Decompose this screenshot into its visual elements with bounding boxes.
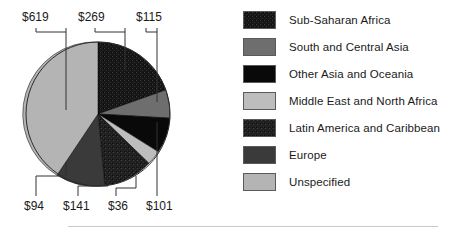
legend-item-latin-america-and-caribbean: Latin America and Caribbean — [243, 114, 451, 141]
value-label-europe: $94 — [24, 199, 44, 213]
legend-swatch-europe — [243, 146, 276, 164]
legend-label-unspecified: Unspecified — [289, 176, 350, 188]
legend-swatch-middle-east-and-north-africa — [243, 92, 276, 110]
legend-item-other-asia-and-oceania: Other Asia and Oceania — [243, 60, 451, 87]
legend-label-sub-saharan-africa: Sub-Saharan Africa — [289, 14, 391, 26]
swatch-texture-icon — [244, 120, 276, 137]
legend-label-south-and-central-asia: South and Central Asia — [289, 41, 409, 53]
value-label-unspecified: $619 — [22, 10, 49, 24]
value-label-sub-saharan-africa: $269 — [78, 10, 105, 24]
legend-swatch-latin-america-and-caribbean — [243, 119, 276, 137]
legend-label-europe: Europe — [289, 149, 327, 161]
legend-swatch-sub-saharan-africa — [243, 11, 276, 29]
chart-legend: Sub-Saharan Africa South and Central Asi… — [243, 6, 451, 195]
legend-item-sub-saharan-africa: Sub-Saharan Africa — [243, 6, 451, 33]
pie-chart-figure: $619 $269 $115 $94 $141 $36 $101 Sub-Sah… — [0, 0, 451, 235]
legend-item-europe: Europe — [243, 141, 451, 168]
swatch-texture-icon — [244, 12, 276, 29]
value-label-latin-america-and-caribbean: $141 — [63, 199, 90, 213]
legend-label-other-asia-and-oceania: Other Asia and Oceania — [289, 68, 413, 80]
pie-chart-area: $619 $269 $115 $94 $141 $36 $101 — [0, 0, 230, 225]
legend-item-unspecified: Unspecified — [243, 168, 451, 195]
legend-swatch-unspecified — [243, 173, 276, 191]
value-label-other-asia-and-oceania: $101 — [146, 199, 173, 213]
legend-label-latin-america-and-caribbean: Latin America and Caribbean — [289, 122, 440, 134]
legend-item-middle-east-and-north-africa: Middle East and North Africa — [243, 87, 451, 114]
pie-chart-svg — [0, 0, 230, 225]
value-label-south-and-central-asia: $115 — [136, 10, 162, 24]
legend-label-middle-east-and-north-africa: Middle East and North Africa — [289, 95, 438, 107]
legend-swatch-south-and-central-asia — [243, 38, 276, 56]
bottom-divider — [68, 226, 438, 227]
legend-item-south-and-central-asia: South and Central Asia — [243, 33, 451, 60]
legend-swatch-other-asia-and-oceania — [243, 65, 276, 83]
value-label-middle-east-and-north-africa: $36 — [108, 199, 128, 213]
